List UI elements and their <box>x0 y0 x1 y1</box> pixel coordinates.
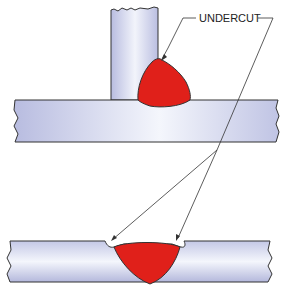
undercut-label: UNDERCUT <box>199 12 261 24</box>
arrow-top-icon <box>161 54 167 61</box>
diagram-canvas: UNDERCUT <box>0 0 283 291</box>
undercut-diagram: UNDERCUT <box>0 0 283 291</box>
arrow-left-icon <box>111 235 117 241</box>
undercut-label-text: UNDERCUT <box>199 12 261 24</box>
base-plate-top <box>14 100 279 142</box>
